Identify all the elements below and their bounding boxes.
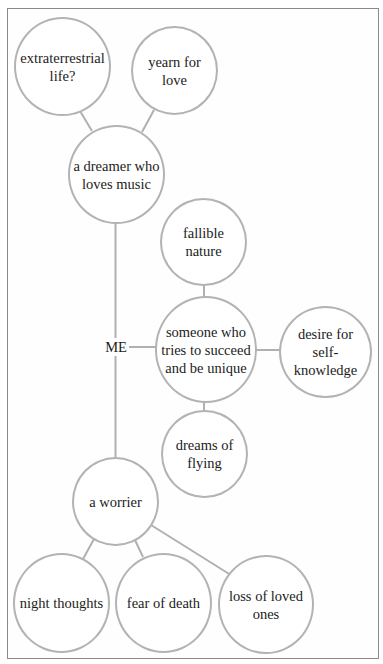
node-yearn-for-love: yearn for love bbox=[131, 26, 218, 115]
node-label: fallible nature bbox=[183, 224, 224, 260]
node-label: night thoughts bbox=[20, 594, 103, 612]
node-desire-for-self-knowledge: desire for self-knowledge bbox=[279, 306, 372, 398]
node-label: fear of death bbox=[127, 594, 200, 612]
node-dreamer-who-loves-music: a dreamer who loves music bbox=[68, 125, 165, 224]
node-label: yearn for love bbox=[148, 53, 201, 89]
node-label: dreams of flying bbox=[176, 436, 234, 472]
node-fear-of-death: fear of death bbox=[115, 553, 212, 653]
node-label: loss of loved ones bbox=[229, 587, 303, 623]
node-label: someone who tries to succeed and be uniq… bbox=[161, 323, 250, 377]
edge-yearn-dreamer bbox=[142, 110, 154, 132]
node-label: a dreamer who loves music bbox=[73, 157, 159, 193]
edge-extraterrestrial-dreamer bbox=[80, 111, 92, 131]
center-label-me: ME bbox=[103, 338, 129, 356]
node-label: desire for self-knowledge bbox=[281, 325, 370, 379]
node-someone-who-tries-to-succeed: someone who tries to succeed and be uniq… bbox=[155, 296, 257, 403]
node-night-thoughts: night thoughts bbox=[13, 553, 110, 653]
edge-worrier-fear bbox=[135, 540, 143, 557]
node-label: extraterrestrial life? bbox=[20, 49, 105, 85]
node-extraterrestrial-life: extraterrestrial life? bbox=[14, 17, 111, 116]
node-dreams-of-flying: dreams of flying bbox=[161, 410, 248, 498]
edge-worrier-night bbox=[83, 539, 94, 559]
node-loss-of-loved-ones: loss of loved ones bbox=[218, 555, 314, 654]
node-a-worrier: a worrier bbox=[72, 457, 159, 546]
node-fallible-nature: fallible nature bbox=[160, 198, 247, 286]
node-label: a worrier bbox=[89, 493, 142, 511]
